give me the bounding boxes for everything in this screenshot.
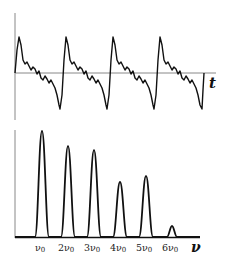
time-axis-label: t — [209, 74, 216, 92]
frequency-axis-label: ν — [191, 239, 201, 255]
frequency-tick-labels: ν0 2ν0 3ν0 4ν0 5ν0 6ν0 — [35, 242, 178, 254]
tick-label-6: 6ν0 — [162, 242, 178, 254]
time-domain-plot: t — [15, 13, 216, 120]
figure: t ν0 2ν0 3ν0 4ν0 5ν0 6ν0 ν — [0, 0, 227, 262]
tick-label-5: 5ν0 — [136, 242, 152, 254]
tick-label-3: 3ν0 — [84, 242, 100, 254]
tick-label-4: 4ν0 — [110, 242, 126, 254]
spectral-peaks — [15, 131, 200, 237]
tick-label-1: ν0 — [35, 242, 45, 254]
spectrum-plot: ν0 2ν0 3ν0 4ν0 5ν0 6ν0 ν — [15, 130, 201, 255]
tick-label-2: 2ν0 — [58, 242, 74, 254]
